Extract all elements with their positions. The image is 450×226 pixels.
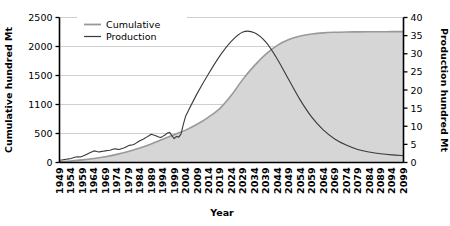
- x-tick-label: 1984: [134, 167, 145, 194]
- x-tick-label: 2059: [306, 168, 317, 194]
- x-tick-label: 2004: [180, 167, 191, 194]
- x-tick-label: 2049: [283, 168, 294, 194]
- x-tick-label: 2024: [226, 167, 237, 194]
- left-axis-title: Cumulative hundred Mt: [3, 26, 14, 153]
- x-tick-label: 2044: [272, 167, 283, 194]
- left-tick-label: 500: [34, 128, 52, 139]
- right-tick-label: 25: [411, 66, 423, 77]
- x-tick-label: 2064: [318, 167, 329, 194]
- x-tick-label: 2014: [203, 167, 214, 194]
- x-tick-label: 2079: [352, 168, 363, 194]
- x-tick-label: 2094: [386, 167, 397, 194]
- legend-label-cumulative: Cumulative: [106, 19, 160, 30]
- x-tick-label: 2084: [364, 167, 375, 194]
- chart-legend: Cumulative Production: [77, 16, 187, 43]
- x-tick-label: 1989: [146, 168, 157, 194]
- x-tick-label: 1949: [54, 168, 65, 194]
- x-tick-label: 1974: [111, 167, 122, 194]
- right-tick-label: 0: [411, 157, 417, 168]
- x-axis-tick-labels: 1949195419591964196919741979198419891994…: [54, 167, 409, 194]
- x-tick-label: 2039: [260, 168, 271, 194]
- x-axis-title: Year: [209, 207, 234, 218]
- x-tick-label: 2089: [375, 168, 386, 194]
- coal-production-cumulative-chart: 05001100150020002500 0510152025303540 19…: [0, 0, 450, 226]
- x-tick-label: 2009: [192, 168, 203, 194]
- x-tick-label: 2029: [237, 168, 248, 194]
- left-tick-label: 2500: [28, 12, 52, 23]
- x-tick-label: 1979: [123, 168, 134, 194]
- x-tick-label: 2099: [398, 168, 409, 194]
- x-tick-label: 2054: [295, 167, 306, 194]
- x-tick-label: 1994: [157, 167, 168, 194]
- left-tick-label: 2000: [28, 41, 52, 52]
- x-tick-label: 2074: [341, 167, 352, 194]
- x-tick-label: 1959: [77, 168, 88, 194]
- right-tick-label: 35: [411, 30, 423, 41]
- x-tick-label: 2069: [329, 168, 340, 194]
- x-tick-label: 1954: [65, 167, 76, 194]
- chart-container: 05001100150020002500 0510152025303540 19…: [0, 0, 450, 226]
- right-tick-label: 30: [411, 48, 423, 59]
- right-axis-title: Production hundred Mt: [439, 28, 450, 153]
- x-tick-label: 1969: [100, 168, 111, 194]
- x-tick-label: 1999: [169, 168, 180, 194]
- right-tick-label: 40: [411, 12, 423, 23]
- left-tick-label: 1100: [28, 99, 52, 110]
- left-tick-label: 1500: [28, 70, 52, 81]
- x-tick-label: 1964: [88, 167, 99, 194]
- right-tick-label: 15: [411, 103, 423, 114]
- right-tick-label: 10: [411, 121, 423, 132]
- x-tick-label: 2034: [249, 167, 260, 194]
- right-tick-label: 5: [411, 139, 417, 150]
- x-tick-label: 2019: [214, 168, 225, 194]
- left-tick-label: 0: [46, 157, 52, 168]
- right-tick-label: 20: [411, 85, 423, 96]
- legend-label-production: Production: [106, 31, 157, 42]
